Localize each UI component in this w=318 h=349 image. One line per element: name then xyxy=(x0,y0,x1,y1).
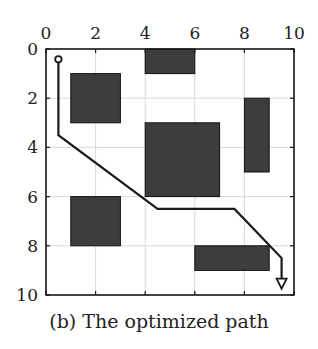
y-tick-label: 6 xyxy=(27,187,38,207)
path-plot: 02468100246810 xyxy=(0,0,318,349)
x-tick-label: 0 xyxy=(41,23,52,43)
x-tick-label: 2 xyxy=(90,23,101,43)
x-tick-label: 4 xyxy=(140,23,151,43)
y-tick-label: 8 xyxy=(27,236,38,256)
obstacle xyxy=(145,123,219,197)
obstacle xyxy=(145,49,195,74)
obstacle xyxy=(71,197,121,246)
obstacle xyxy=(244,98,269,172)
y-tick-label: 0 xyxy=(27,39,38,59)
end-arrow-icon xyxy=(277,279,287,289)
y-tick-label: 2 xyxy=(27,88,38,108)
figure-caption: (b) The optimized path xyxy=(0,310,318,332)
start-circle-icon xyxy=(55,56,61,62)
obstacle xyxy=(71,74,121,123)
y-tick-label: 4 xyxy=(27,137,38,157)
x-tick-label: 10 xyxy=(283,23,305,43)
y-tick-label: 10 xyxy=(16,285,38,305)
obstacle xyxy=(195,246,269,271)
x-tick-label: 8 xyxy=(239,23,250,43)
x-tick-label: 6 xyxy=(189,23,200,43)
